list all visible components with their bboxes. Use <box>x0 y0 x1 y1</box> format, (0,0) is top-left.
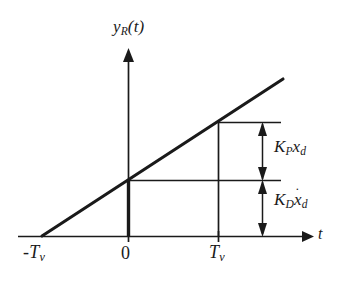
y-axis-arrow-icon <box>123 48 134 62</box>
y-axis-label-sub: R <box>121 25 128 38</box>
annotation-kp-symbol: K <box>274 137 286 156</box>
measure-arrow-kp-head-down-icon <box>258 167 267 181</box>
annotation-kp-xd: KPxd <box>274 138 306 155</box>
x-axis-label-text: t <box>318 225 323 242</box>
derivative-dot-icon: ˙ <box>295 187 300 201</box>
tick-label-zero: 0 <box>121 244 130 262</box>
y-axis-label-main: y <box>113 17 121 36</box>
tick-label-tv: Tv <box>209 243 225 261</box>
measure-arrow-kp-head-up-icon <box>258 122 267 136</box>
tick-label-zero-symbol: 0 <box>121 243 130 263</box>
tick-label-neg-tv: -Tv <box>23 243 45 261</box>
tick-label-neg-tv-sub: v <box>39 250 44 264</box>
y-axis-label: yR(t) <box>113 18 144 35</box>
annotation-kd-symbol: K <box>274 190 286 209</box>
y-axis-label-arg: (t) <box>128 17 145 36</box>
measure-arrow-kd-head-down-icon <box>258 223 267 237</box>
x-axis-arrow-icon <box>302 231 314 242</box>
ramp-line <box>42 79 283 236</box>
annotation-kd-variable-group: ˙x <box>294 191 302 208</box>
tick-label-tv-sub: v <box>219 250 224 264</box>
annotation-kd-variable-sub: d <box>302 198 308 211</box>
annotation-kd-xdot-d: KD˙xd <box>274 191 307 208</box>
tick-label-neg-tv-symbol: T <box>29 242 39 262</box>
annotation-kp-symbol-sub: P <box>286 145 293 158</box>
annotation-kd-symbol-sub: D <box>286 198 294 211</box>
measure-arrow-kd-head-up-icon <box>258 180 267 194</box>
x-axis-label: t <box>318 226 323 242</box>
tick-label-tv-symbol: T <box>209 242 219 262</box>
ramp-response-diagram: yR(t) t -Tv 0 Tv KPxd KD˙xd <box>0 0 345 284</box>
annotation-kp-variable-sub: d <box>300 145 306 158</box>
